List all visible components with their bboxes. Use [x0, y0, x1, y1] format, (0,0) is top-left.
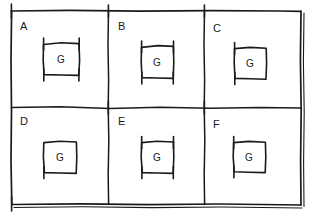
frame-bottom-edge-secondary — [14, 207, 302, 208]
grid-dividers — [11, 5, 301, 204]
panel-d-box-label: G — [56, 152, 64, 163]
panel-label-c: C — [213, 22, 221, 34]
panel-label-f: F — [213, 118, 220, 130]
panel-c-box-label: G — [246, 58, 254, 69]
diagram-canvas: A B C D E F G G G G G G — [0, 0, 315, 219]
frame-right-edge-secondary — [303, 13, 304, 207]
grid-divider-horizontal — [11, 107, 301, 109]
panel-e-box-label: G — [153, 152, 161, 163]
panel-a-box-label: G — [57, 54, 65, 65]
frame-bottom-edge — [12, 204, 301, 205]
frame-top-edge — [11, 10, 301, 11]
panel-label-b: B — [118, 20, 126, 32]
hand-drawn-grid-illustration — [0, 0, 315, 219]
panel-label-e: E — [118, 115, 126, 127]
panel-label-d: D — [20, 115, 28, 127]
panel-b-box-label: G — [153, 57, 161, 68]
panel-f-box-label: G — [245, 152, 253, 163]
panel-label-a: A — [20, 20, 28, 32]
